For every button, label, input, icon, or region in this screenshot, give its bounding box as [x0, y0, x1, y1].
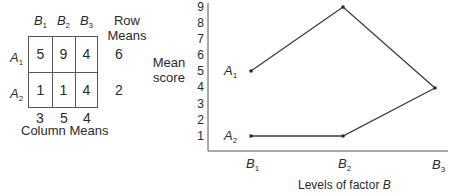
series-letter: A — [224, 63, 233, 78]
series-a2-line — [251, 88, 435, 136]
x-tick-letter: B — [338, 156, 347, 171]
series-sub: 1 — [233, 71, 237, 80]
x-tick-sub: 3 — [441, 165, 445, 174]
x-tick-letter: B — [246, 156, 255, 171]
x-tick-letter: B — [432, 157, 441, 172]
x-axis-label-text: Levels of factor — [298, 178, 383, 192]
point-a1-b2 — [341, 5, 345, 9]
point-b3 — [433, 86, 437, 90]
x-tick-sub: 2 — [347, 164, 351, 173]
point-a2-b2 — [341, 134, 345, 138]
x-tick-sub: 1 — [255, 164, 259, 173]
point-a1-b1 — [249, 69, 253, 73]
point-a2-b1 — [249, 134, 253, 138]
plot-canvas — [0, 0, 455, 196]
series-a1-line — [251, 7, 435, 88]
series-letter: A — [224, 128, 233, 143]
x-tick-b3: B3 — [432, 157, 445, 174]
x-tick-b2: B2 — [338, 156, 351, 173]
series-label-a1: A1 — [224, 63, 237, 80]
series-sub: 2 — [233, 136, 237, 145]
x-axis-label: Levels of factor B — [298, 178, 391, 192]
x-tick-b1: B1 — [246, 156, 259, 173]
x-axis-label-var: B — [383, 178, 391, 192]
series-label-a2: A2 — [224, 128, 237, 145]
